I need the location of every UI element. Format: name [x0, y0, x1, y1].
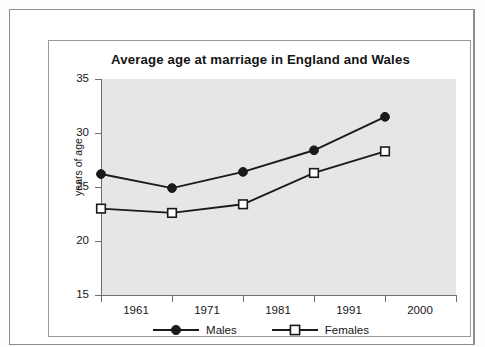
y-axis-label: 20	[59, 234, 89, 246]
x-axis-label: 1961	[106, 304, 166, 316]
y-axis-label: 15	[59, 288, 89, 300]
data-point-females-1961	[97, 204, 106, 213]
plot-area	[101, 79, 456, 295]
x-axis-line	[101, 295, 457, 296]
data-point-males-1971	[168, 184, 177, 193]
data-point-females-1981	[239, 200, 248, 209]
series-layer	[97, 112, 390, 217]
filled-circle-marker-icon	[152, 323, 200, 337]
x-axis-label: 2000	[390, 304, 450, 316]
x-axis-tick	[243, 296, 244, 302]
x-axis-label: 1991	[319, 304, 379, 316]
y-axis-label: 35	[59, 72, 89, 84]
open-square-marker-icon	[271, 323, 319, 337]
data-point-females-2000	[381, 147, 390, 156]
x-axis-tick	[101, 296, 102, 302]
data-point-males-2000	[381, 112, 390, 121]
document-page: Average age at marriage in England and W…	[0, 0, 485, 347]
chart-title: Average age at marriage in England and W…	[49, 52, 472, 67]
x-axis-tick	[456, 296, 457, 302]
x-axis-tick	[172, 296, 173, 302]
legend-label-females: Females	[325, 324, 369, 336]
data-point-females-1991	[310, 169, 319, 178]
page-border: Average age at marriage in England and W…	[9, 9, 475, 345]
legend-item-males: Males	[152, 323, 237, 337]
data-point-males-1961	[97, 170, 106, 179]
y-axis-label: 25	[59, 180, 89, 192]
legend-label-males: Males	[206, 324, 237, 336]
series-line-males	[101, 117, 385, 188]
data-point-males-1991	[310, 146, 319, 155]
legend-item-females: Females	[271, 323, 369, 337]
chart-legend: Males Females	[49, 323, 472, 337]
data-point-females-1971	[168, 209, 177, 218]
data-point-males-1981	[239, 167, 248, 176]
chart-container: Average age at marriage in England and W…	[48, 40, 471, 337]
x-axis-label: 1981	[248, 304, 308, 316]
x-axis-tick	[385, 296, 386, 302]
x-axis-tick	[314, 296, 315, 302]
x-axis-label: 1971	[177, 304, 237, 316]
y-axis-label: 30	[59, 126, 89, 138]
